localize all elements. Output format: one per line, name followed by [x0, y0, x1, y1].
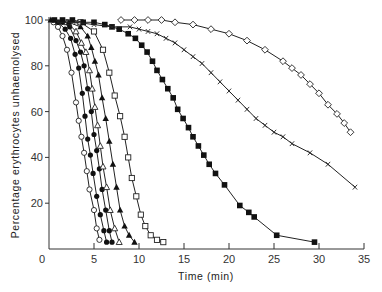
data-point [139, 42, 145, 48]
y-axis-title: Percentage erythrocytes unhaemolysed [9, 32, 21, 239]
data-point [125, 31, 131, 37]
data-point [113, 184, 119, 190]
data-point [312, 239, 318, 245]
data-point [209, 70, 213, 75]
data-point [172, 19, 179, 26]
data-point [55, 24, 60, 29]
data-point [158, 17, 165, 24]
data-point [64, 47, 69, 52]
data-point [353, 185, 357, 190]
data-point [68, 36, 73, 41]
data-point [91, 207, 96, 212]
data-point [82, 150, 87, 155]
data-point [80, 91, 85, 96]
data-point [196, 143, 202, 149]
data-point [76, 65, 81, 70]
x-tick-label: 0 [39, 253, 45, 265]
x-tick-label: 35 [358, 253, 370, 265]
data-point [92, 104, 98, 110]
data-point [98, 212, 103, 217]
data-point [254, 116, 258, 121]
data-point [272, 130, 276, 135]
data-point [246, 210, 252, 216]
data-point [103, 115, 109, 121]
data-point [133, 36, 139, 42]
data-point [107, 228, 112, 233]
data-point [95, 122, 101, 128]
data-point [94, 226, 99, 231]
data-point [95, 72, 101, 78]
data-point [251, 214, 257, 220]
data-point [237, 203, 243, 209]
x-tick-label: 30 [313, 253, 325, 265]
data-point [78, 49, 83, 54]
data-point [244, 37, 251, 44]
data-point [91, 132, 96, 137]
data-point [281, 134, 285, 139]
data-point [131, 17, 138, 24]
data-point [190, 134, 196, 140]
data-point [78, 40, 84, 46]
data-point [73, 52, 78, 57]
data-point [106, 138, 112, 144]
data-point [76, 118, 81, 123]
data-point [206, 161, 212, 167]
data-point [104, 184, 110, 190]
data-point [308, 150, 312, 155]
data-point [182, 47, 186, 52]
y-tick-label: 100 [25, 14, 43, 26]
data-point [100, 163, 106, 169]
data-point [245, 107, 249, 112]
data-point [263, 123, 267, 128]
data-point [148, 233, 153, 238]
x-tick-label: 25 [268, 253, 280, 265]
data-point [138, 212, 143, 217]
data-point [117, 207, 123, 213]
data-point [99, 94, 105, 100]
data-point [200, 61, 204, 66]
data-point [213, 171, 219, 177]
x-axis-title: Time (min) [178, 270, 234, 282]
y-tick-label: 40 [31, 151, 43, 163]
data-point [236, 98, 240, 103]
data-point [84, 169, 89, 174]
axes: 2040608010005101520253035 [25, 14, 370, 265]
data-point [63, 27, 68, 32]
data-point [87, 187, 92, 192]
data-point [226, 30, 233, 37]
data-point [69, 70, 74, 75]
data-point [116, 239, 122, 245]
data-point [175, 107, 181, 113]
data-point [122, 134, 127, 139]
data-point [97, 237, 102, 242]
data-point [180, 116, 186, 122]
data-point [101, 228, 106, 233]
y-tick-label: 20 [31, 197, 43, 209]
chart: 2040608010005101520253035 Time (min) Per… [0, 0, 382, 292]
data-point [150, 58, 156, 64]
data-point [80, 19, 86, 25]
data-point [165, 86, 171, 92]
data-point [347, 129, 354, 136]
data-point [161, 240, 166, 245]
data-point [109, 240, 114, 245]
data-point [160, 77, 166, 83]
x-tick-label: 10 [133, 253, 145, 265]
x-tick-label: 15 [178, 253, 190, 265]
data-point [186, 125, 192, 131]
data-point [262, 46, 269, 53]
data-point [126, 232, 132, 238]
data-point [208, 26, 215, 33]
data-point [164, 36, 168, 41]
series-line [121, 20, 351, 132]
data-point [134, 194, 139, 199]
data-point [79, 134, 84, 139]
data-point [104, 240, 109, 245]
data-point [173, 41, 177, 46]
data-point [126, 155, 131, 160]
data-point [83, 49, 89, 55]
data-point [87, 67, 93, 73]
data-point [290, 141, 294, 146]
data-curves [48, 17, 358, 245]
series-diamond-open [118, 17, 354, 136]
